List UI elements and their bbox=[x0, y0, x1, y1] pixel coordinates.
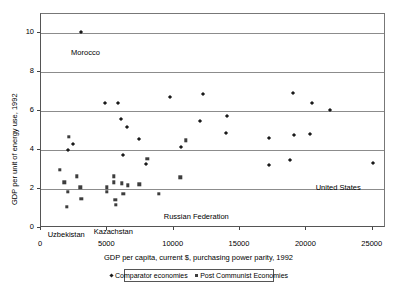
data-point bbox=[168, 95, 172, 99]
data-point bbox=[58, 168, 61, 171]
gridline bbox=[41, 72, 384, 73]
data-point bbox=[120, 182, 123, 185]
x-tick-mark bbox=[106, 227, 107, 230]
y-tick-mark bbox=[37, 110, 40, 111]
scatter-chart: GDP per unit of energy use, 1992 Morocco… bbox=[0, 0, 397, 289]
data-point bbox=[122, 192, 125, 195]
x-tick-label: 25000 bbox=[361, 240, 382, 248]
y-tick-mark bbox=[37, 188, 40, 189]
data-point bbox=[371, 161, 375, 165]
data-point bbox=[66, 148, 70, 152]
data-point bbox=[63, 181, 66, 184]
data-point bbox=[224, 131, 228, 135]
data-point bbox=[197, 119, 201, 123]
data-point bbox=[105, 190, 108, 193]
data-point bbox=[137, 183, 140, 186]
x-tick-label: 5000 bbox=[98, 240, 115, 248]
data-point bbox=[80, 197, 83, 200]
data-point bbox=[114, 203, 117, 206]
data-point bbox=[119, 117, 123, 121]
y-tick-label: 4 bbox=[30, 145, 34, 153]
x-axis-title: GDP per capita, current $, purchasing po… bbox=[0, 253, 397, 262]
data-point bbox=[179, 145, 183, 149]
data-point bbox=[137, 136, 141, 140]
x-tick-label: 15000 bbox=[229, 240, 250, 248]
data-point bbox=[225, 114, 229, 118]
y-tick-mark bbox=[37, 71, 40, 72]
data-point bbox=[65, 205, 68, 208]
gridline bbox=[41, 33, 384, 34]
data-point bbox=[288, 158, 292, 162]
legend-item-post-communist: Post Communist Economies bbox=[195, 272, 288, 280]
data-point bbox=[179, 176, 182, 179]
data-point bbox=[144, 162, 148, 166]
data-point bbox=[116, 100, 120, 104]
data-point bbox=[124, 125, 128, 129]
annotation-label: Uzbekistan bbox=[48, 231, 85, 239]
data-point bbox=[121, 153, 125, 157]
annotation-label: Kazachstan bbox=[94, 228, 133, 236]
y-tick-label: 0 bbox=[30, 223, 34, 231]
data-point bbox=[308, 132, 312, 136]
data-point bbox=[126, 183, 129, 186]
data-point bbox=[112, 175, 115, 178]
annotation-label: United States bbox=[316, 184, 361, 192]
data-point bbox=[103, 100, 107, 104]
y-tick-mark bbox=[37, 32, 40, 33]
legend-label-post-communist: Post Communist Economies bbox=[200, 272, 288, 280]
x-tick-label: 10000 bbox=[162, 240, 183, 248]
x-tick-mark bbox=[239, 227, 240, 230]
gridline bbox=[41, 150, 384, 151]
data-point bbox=[267, 163, 271, 167]
x-tick-mark bbox=[40, 227, 41, 230]
data-point bbox=[66, 190, 69, 193]
data-point bbox=[310, 100, 314, 104]
legend-item-comparator: Comparator economies bbox=[110, 272, 188, 280]
data-point bbox=[112, 181, 115, 184]
data-point bbox=[292, 132, 296, 136]
data-point bbox=[157, 192, 160, 195]
gridline bbox=[41, 111, 384, 112]
square-marker-icon bbox=[195, 274, 198, 277]
y-tick-label: 10 bbox=[26, 28, 34, 36]
x-tick-mark bbox=[305, 227, 306, 230]
y-tick-label: 6 bbox=[30, 106, 34, 114]
data-point bbox=[78, 185, 81, 188]
y-tick-label: 8 bbox=[30, 67, 34, 75]
legend-label-comparator: Comparator economies bbox=[115, 272, 188, 280]
x-tick-label: 0 bbox=[38, 240, 42, 248]
x-tick-mark bbox=[173, 227, 174, 230]
annotation-label: Morocco bbox=[71, 49, 100, 57]
x-tick-label: 20000 bbox=[295, 240, 316, 248]
data-point bbox=[71, 142, 75, 146]
data-point bbox=[75, 175, 78, 178]
data-point bbox=[267, 135, 271, 139]
plot-area: MoroccoUnited StatesRussian FederationUz… bbox=[40, 13, 385, 227]
data-point bbox=[184, 139, 187, 142]
data-point bbox=[67, 135, 70, 138]
data-point bbox=[145, 157, 148, 160]
data-point bbox=[114, 198, 117, 201]
y-tick-label: 2 bbox=[30, 184, 34, 192]
data-point bbox=[105, 185, 108, 188]
data-point bbox=[201, 92, 205, 96]
x-tick-mark bbox=[372, 227, 373, 230]
diamond-marker-icon bbox=[109, 273, 113, 277]
y-tick-mark bbox=[37, 149, 40, 150]
legend: Comparator economies Post Communist Econ… bbox=[124, 269, 274, 282]
data-point bbox=[291, 91, 295, 95]
annotation-label: Russian Federation bbox=[164, 213, 229, 221]
y-axis-title: GDP per unit of energy use, 1992 bbox=[10, 93, 19, 205]
